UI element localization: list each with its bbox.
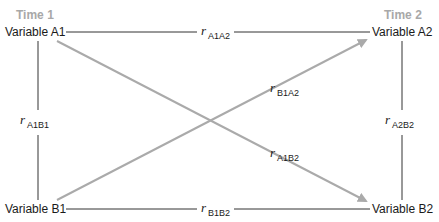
- r-symbol: r: [270, 145, 275, 160]
- r-symbol: r: [201, 200, 206, 215]
- r-subscript: A2B2: [392, 120, 414, 130]
- r-subscript: B1A2: [277, 88, 299, 98]
- label-r-a1a2: rA1A2: [197, 24, 234, 43]
- r-subscript: A1A2: [208, 31, 230, 41]
- node-variable-b1: Variable B1: [5, 202, 66, 216]
- label-r-b1a2: rB1A2: [266, 81, 303, 100]
- r-symbol: r: [270, 80, 275, 95]
- label-r-a1b1: rA1B1: [19, 110, 50, 135]
- r-symbol: r: [385, 112, 390, 127]
- label-r-a1b2: rA1B2: [266, 146, 303, 165]
- r-symbol: r: [201, 23, 206, 38]
- time1-label: Time 1: [16, 8, 54, 22]
- node-variable-a1: Variable A1: [5, 25, 66, 39]
- r-subscript: A1B1: [27, 120, 49, 130]
- node-variable-a2: Variable A2: [372, 25, 433, 39]
- node-variable-b2: Variable B2: [372, 202, 433, 216]
- r-subscript: A1B2: [277, 153, 299, 163]
- label-r-a2b2: rA2B2: [384, 110, 415, 135]
- r-subscript: B1B2: [208, 208, 230, 218]
- time2-label: Time 2: [384, 8, 422, 22]
- label-r-b1b2: rB1B2: [197, 201, 234, 220]
- r-symbol: r: [20, 112, 25, 127]
